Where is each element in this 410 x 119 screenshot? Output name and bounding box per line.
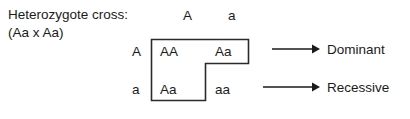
right-arrow-icon-recessive bbox=[263, 81, 320, 93]
diagram-caption-line-1: Heterozygote cross: bbox=[8, 8, 128, 22]
punnett-square-diagram: Heterozygote cross: (Aa x Aa) A a A a AA… bbox=[0, 0, 410, 119]
punnett-row-header-0: A bbox=[132, 45, 141, 59]
punnett-cell-0-1: Aa bbox=[215, 45, 232, 59]
punnett-column-header-0: A bbox=[183, 9, 192, 23]
punnett-cell-1-0: Aa bbox=[160, 83, 177, 97]
punnett-cell-0-0: AA bbox=[160, 45, 178, 59]
outcome-label-recessive: Recessive bbox=[327, 81, 389, 95]
outcome-label-dominant: Dominant bbox=[327, 43, 385, 57]
punnett-column-header-1: a bbox=[228, 9, 236, 23]
right-arrow-icon-dominant bbox=[272, 43, 320, 55]
punnett-cell-1-1: aa bbox=[215, 83, 230, 97]
diagram-caption-line-2: (Aa x Aa) bbox=[8, 26, 64, 40]
punnett-row-header-1: a bbox=[132, 83, 140, 97]
